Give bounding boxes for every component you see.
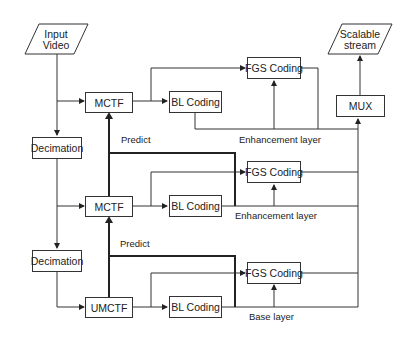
umctf-box: UMCTF	[85, 297, 133, 318]
predict-label-2: Predict	[120, 238, 150, 249]
scalable-video-coding-diagram: Input Video Scalable stream MCTF MCTF UM…	[0, 0, 414, 338]
input-video-line2: Video	[43, 40, 70, 51]
mux-box: MUX	[336, 95, 385, 117]
decimation-2-box: Decimation	[32, 250, 82, 272]
fgs-coding-mid-box: FGS Coding	[247, 161, 301, 183]
mctf-mid-box: MCTF	[85, 196, 133, 217]
enhancement-layer-label-1: Enhancement layer	[239, 134, 321, 145]
predict-label-1: Predict	[121, 134, 151, 145]
scalable-stream-node: Scalable stream	[334, 26, 386, 54]
enhancement-layer-label-2: Enhancement layer	[235, 210, 317, 221]
fgs-coding-bot-box: FGS Coding	[247, 262, 301, 284]
bl-coding-top-box: BL Coding	[169, 91, 222, 113]
input-video-node: Input Video	[30, 26, 82, 54]
mctf-top-box: MCTF	[85, 92, 133, 113]
decimation-1-box: Decimation	[32, 137, 82, 159]
base-layer-label: Base layer	[249, 311, 294, 322]
scalable-stream-line2: stream	[344, 40, 376, 51]
fgs-coding-top-box: FGS Coding	[247, 57, 301, 79]
bl-coding-mid-box: BL Coding	[169, 195, 222, 217]
bl-coding-bot-box: BL Coding	[169, 296, 222, 318]
